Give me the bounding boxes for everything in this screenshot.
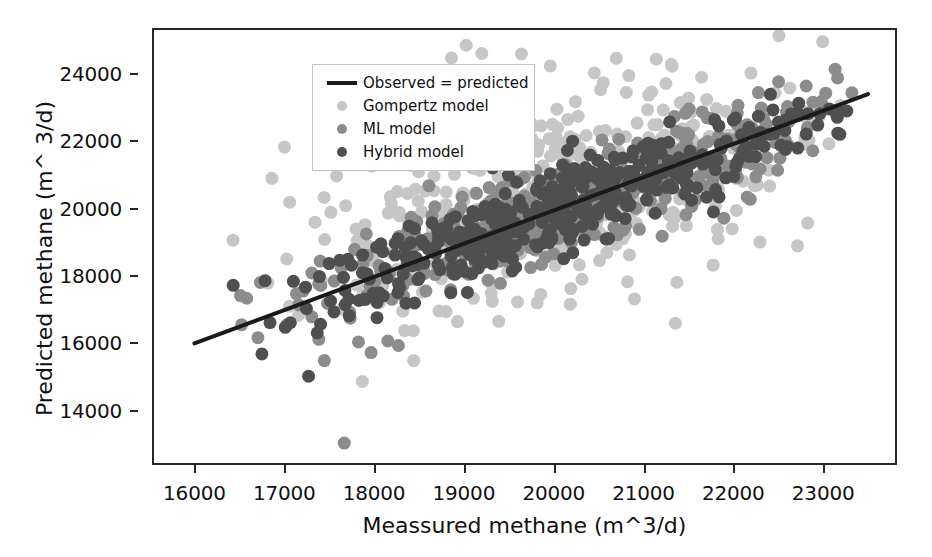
x-tick-mark [464,465,466,473]
y-tick-mark [130,73,138,75]
x-tick-label: 23000 [792,481,855,505]
x-tick-mark [554,465,556,473]
x-axis-title: Meassured methane (m^3/d) [152,513,897,538]
legend-label: Observed = predicted [363,74,528,92]
legend-marker-swatch [321,147,363,157]
y-tick-label: 24000 [59,62,122,86]
y-tick-label: 16000 [59,331,122,355]
x-tick-label: 20000 [522,481,585,505]
legend-item-hybrid-model: Hybrid model [321,140,526,163]
chart-legend: Observed = predicted Gompertz model ML m… [312,64,535,171]
x-tick-label: 17000 [253,481,316,505]
plot-area: Observed = predicted Gompertz model ML m… [152,28,897,465]
x-tick-mark [823,465,825,473]
y-tick-label: 14000 [59,399,122,423]
x-tick-mark [733,465,735,473]
legend-line-swatch [321,81,363,85]
y-tick-mark [130,208,138,210]
legend-label: Gompertz model [363,97,489,115]
x-tick-label: 19000 [433,481,496,505]
x-tick-mark [644,465,646,473]
x-tick-mark [194,465,196,473]
x-axis-ticks: 1600017000180001900020000210002200023000 [152,465,897,511]
legend-label: Hybrid model [363,143,464,161]
legend-label: ML model [363,120,436,138]
y-tick-label: 18000 [59,264,122,288]
x-tick-label: 16000 [163,481,226,505]
y-tick-mark [130,275,138,277]
x-tick-label: 22000 [702,481,765,505]
x-tick-mark [374,465,376,473]
y-tick-label: 22000 [59,129,122,153]
y-tick-mark [130,410,138,412]
legend-marker-swatch [321,101,363,111]
legend-marker-swatch [321,124,363,134]
legend-item-ml-model: ML model [321,117,526,140]
y-tick-mark [130,342,138,344]
y-tick-label: 20000 [59,197,122,221]
x-tick-mark [284,465,286,473]
y-axis-ticks: 140001600018000200002200024000 [0,28,138,465]
scatter-plot-figure: Observed = predicted Gompertz model ML m… [0,0,932,557]
x-tick-label: 18000 [343,481,406,505]
legend-item-gompertz-model: Gompertz model [321,94,526,117]
x-tick-label: 21000 [612,481,675,505]
y-tick-mark [130,140,138,142]
y-axis-title: Predicted methane (m^ 3/d) [32,49,57,469]
legend-item-observed-predicted: Observed = predicted [321,71,526,94]
